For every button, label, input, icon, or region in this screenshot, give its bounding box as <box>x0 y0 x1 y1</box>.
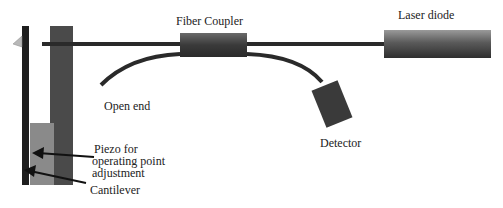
cantilever-tip <box>13 36 22 47</box>
piezo-label-line3: adjustment <box>92 167 145 179</box>
laser-diode <box>384 30 491 58</box>
detector-label: Detector <box>320 137 361 149</box>
open-end-label: Open end <box>104 100 150 112</box>
laser-diode-label: Laser diode <box>398 9 454 21</box>
cantilever-label: Cantilever <box>90 184 140 196</box>
fiber-coupler-label: Fiber Coupler <box>176 15 243 27</box>
fiber-open-end <box>101 54 180 85</box>
fiber-to-detector <box>247 54 322 82</box>
cantilever <box>22 26 29 185</box>
detector <box>312 80 353 128</box>
fiber-coupler <box>180 33 247 57</box>
interferometer-diagram <box>0 0 503 208</box>
